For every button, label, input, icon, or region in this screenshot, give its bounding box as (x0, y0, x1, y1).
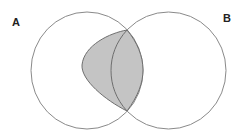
set-b-label: B (223, 12, 231, 24)
shaded-region (82, 30, 143, 111)
set-a-label: A (12, 16, 20, 28)
venn-diagram: A B (0, 0, 242, 140)
